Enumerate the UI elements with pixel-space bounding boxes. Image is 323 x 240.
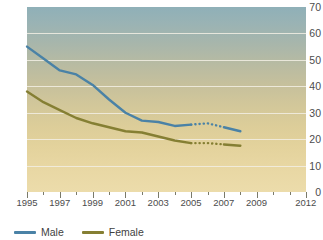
x-axis-label-2001: 2001 bbox=[108, 197, 142, 208]
x-tick-2010 bbox=[273, 192, 274, 195]
y-axis-label-60: 60 bbox=[297, 28, 321, 38]
x-axis-label-2005: 2005 bbox=[174, 197, 208, 208]
legend-label-male: Male bbox=[41, 227, 64, 238]
series-female bbox=[27, 92, 240, 146]
x-axis-label-1995: 1995 bbox=[10, 197, 44, 208]
x-axis-label-2003: 2003 bbox=[141, 197, 175, 208]
x-tick-2011 bbox=[290, 192, 291, 195]
x-axis-label-2007: 2007 bbox=[207, 197, 241, 208]
chart-legend: Male Female bbox=[14, 227, 144, 238]
legend-item-male: Male bbox=[14, 227, 64, 238]
y-axis-label-10: 10 bbox=[297, 161, 321, 171]
x-tick-2004 bbox=[175, 192, 176, 195]
legend-swatch-female bbox=[82, 231, 104, 234]
x-axis-label-2009: 2009 bbox=[240, 197, 274, 208]
x-tick-1996 bbox=[43, 192, 44, 195]
legend-item-female: Female bbox=[82, 227, 144, 238]
legend-label-female: Female bbox=[109, 227, 144, 238]
x-axis-label-1999: 1999 bbox=[76, 197, 110, 208]
y-axis-label-20: 20 bbox=[297, 134, 321, 144]
y-axis-label-40: 40 bbox=[297, 81, 321, 91]
x-tick-2002 bbox=[142, 192, 143, 195]
x-tick-1998 bbox=[76, 192, 77, 195]
plot-area bbox=[27, 7, 306, 192]
x-tick-2008 bbox=[240, 192, 241, 195]
legend-swatch-male bbox=[14, 231, 36, 234]
y-axis-label-30: 30 bbox=[297, 108, 321, 118]
series-male bbox=[27, 47, 240, 132]
x-axis-label-2012: 2012 bbox=[289, 197, 323, 208]
x-axis-label-1997: 1997 bbox=[43, 197, 77, 208]
x-tick-2006 bbox=[208, 192, 209, 195]
y-axis-label-50: 50 bbox=[297, 55, 321, 65]
y-axis-label-0: 0 bbox=[297, 187, 321, 197]
series-lines bbox=[27, 7, 306, 192]
x-tick-2000 bbox=[109, 192, 110, 195]
y-axis-label-70: 70 bbox=[297, 2, 321, 12]
